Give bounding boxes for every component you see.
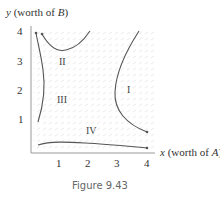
region-label-i: I: [127, 84, 130, 95]
y-tick-2: 2: [17, 84, 23, 96]
region-label-iii: III: [57, 94, 67, 105]
y-tick-4: 4: [17, 25, 23, 37]
region-label-ii: II: [59, 56, 66, 67]
x-tick-2: 2: [85, 157, 91, 169]
trajectory-iii-arrowhead: [35, 32, 38, 35]
trajectory-ii-arrowhead: [41, 33, 44, 36]
x-tick-3: 3: [114, 157, 120, 169]
y-tick-1: 1: [18, 113, 24, 125]
trajectory-i-arrowhead: [146, 131, 149, 134]
x-axis-label: x (worth of A): [160, 146, 220, 158]
region-label-iv: IV: [86, 125, 97, 136]
y-axis-label: y (worth of B): [6, 6, 68, 18]
x-tick-4: 4: [144, 157, 150, 169]
phase-plane-plot: [0, 0, 220, 203]
x-tick-1: 1: [56, 157, 62, 169]
trajectory-iv-arrowhead: [146, 147, 149, 150]
y-tick-3: 3: [17, 55, 23, 67]
figure-caption: Figure 9.43: [0, 180, 200, 191]
